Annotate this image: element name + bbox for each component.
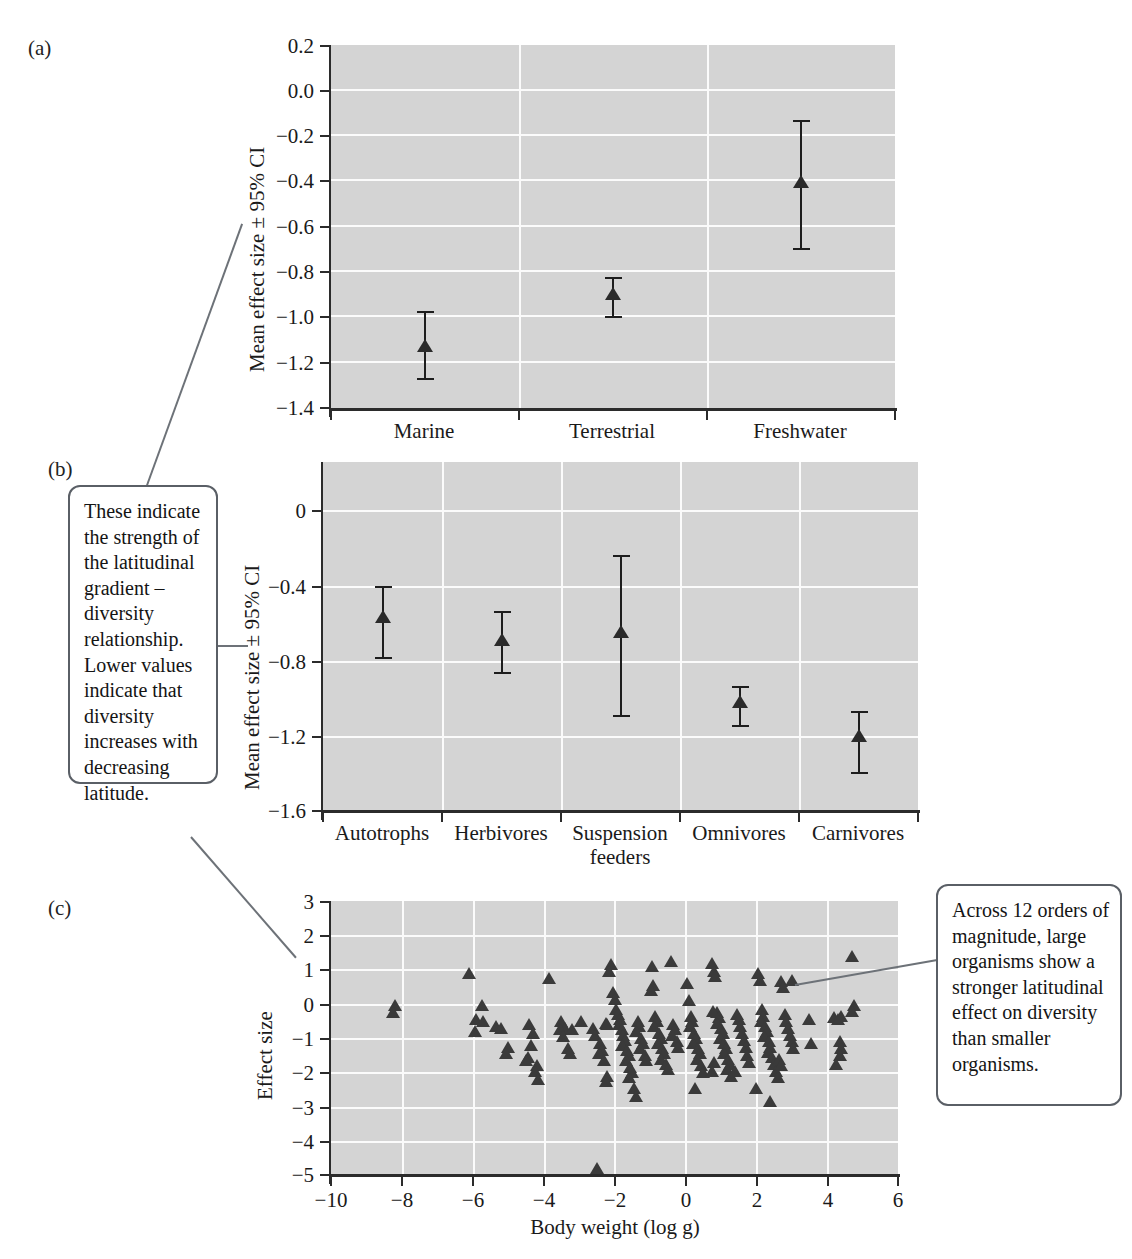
panel-a-ytick-label: −0.6 [236, 215, 314, 240]
panel-b-ytick-label: −0.8 [228, 650, 306, 675]
scatter-point [462, 967, 476, 979]
gridline [799, 462, 801, 811]
ytick-mark [320, 1004, 329, 1006]
xtick-mark [679, 811, 681, 822]
scatter-point [664, 955, 678, 967]
scatter-point [708, 970, 722, 982]
callout-body-weight-explanation: Across 12 orders of magnitude, large org… [936, 884, 1122, 1106]
error-bar-cap-upper-freshwater [793, 120, 810, 122]
panel-c-x-axis-label: Body weight (log g) [455, 1215, 775, 1240]
data-marker-autotrophs [375, 610, 391, 623]
scatter-point [494, 1022, 508, 1034]
xtick-mark [560, 811, 562, 822]
panel-a-ytick-label: −1.4 [236, 396, 314, 421]
panel-b-ytick-label: −0.4 [228, 575, 306, 600]
ytick-mark [312, 586, 321, 588]
xtick-mark [798, 811, 800, 822]
ytick-mark [320, 407, 329, 409]
xtick-mark [897, 1175, 899, 1186]
scatter-point [645, 960, 659, 972]
error-bar-cap-lower-suspension-feeders [613, 715, 630, 717]
panel-b-ytick-label: 0 [228, 499, 306, 524]
panel-a-ytick-label: −0.8 [236, 260, 314, 285]
scatter-point [786, 1042, 800, 1054]
panel-c-ytick-label: 0 [256, 993, 314, 1018]
xtick-mark [827, 1175, 829, 1186]
scatter-point [629, 1090, 643, 1102]
xtick-mark [756, 1175, 758, 1186]
ytick-mark [320, 935, 329, 937]
data-marker-herbivores [494, 633, 510, 646]
scatter-point [705, 1065, 719, 1077]
scatter-point [563, 1047, 577, 1059]
ytick-mark [312, 736, 321, 738]
panel-a-y-axis-line [329, 45, 331, 417]
scatter-point [829, 1058, 843, 1070]
ytick-mark [320, 45, 329, 47]
data-marker-omnivores [732, 695, 748, 708]
error-bar-cap-lower-freshwater [793, 248, 810, 250]
gridline [331, 134, 895, 136]
gridline [331, 225, 895, 227]
panel-b-ytick-label: −1.6 [228, 799, 306, 824]
panel-a-x-axis-line [329, 408, 897, 411]
panel-c-ytick-label: −2 [256, 1061, 314, 1086]
scatter-point [475, 999, 489, 1011]
panel-c-xtick-label: 4 [793, 1188, 863, 1213]
panel-label-a: (a) [28, 36, 51, 61]
scatter-point [599, 1075, 613, 1087]
callout-effect-size-explanation: These indicate the strength of the latit… [68, 485, 218, 784]
gridline [331, 270, 895, 272]
error-bar-cap-upper-carnivores [851, 711, 868, 713]
panel-b-category-carnivores: Carnivores [788, 822, 928, 846]
ytick-mark [320, 969, 329, 971]
ytick-mark [320, 271, 329, 273]
panel-c-ytick-label: −3 [256, 1096, 314, 1121]
panel-c-xtick-label: −6 [438, 1188, 508, 1213]
scatter-point [590, 1162, 604, 1174]
xtick-mark [330, 1175, 332, 1186]
data-marker-terrestrial [605, 287, 621, 300]
gridline [442, 462, 444, 811]
error-bar-cap-lower-terrestrial [605, 316, 622, 318]
data-marker-marine [417, 339, 433, 352]
ytick-mark [320, 362, 329, 364]
ytick-mark [312, 810, 321, 812]
panel-c-ytick-label: 3 [256, 890, 314, 915]
gridline [519, 45, 521, 409]
panel-c-ytick-label: −4 [256, 1130, 314, 1155]
panel-c-xtick-label: 2 [722, 1188, 792, 1213]
ytick-mark [320, 1174, 329, 1176]
ytick-mark [320, 135, 329, 137]
gridline [323, 510, 918, 512]
gridline [707, 45, 709, 409]
panel-b-ytick-label: −1.2 [228, 725, 306, 750]
gridline [331, 179, 895, 181]
scatter-point [845, 950, 859, 962]
panel-a-ytick-label: −1.2 [236, 351, 314, 376]
gridline [323, 736, 918, 738]
ytick-mark [320, 1107, 329, 1109]
scatter-point [706, 1005, 720, 1017]
scatter-point [802, 1013, 816, 1025]
gridline [473, 901, 475, 1175]
scatter-point [771, 1071, 785, 1083]
xtick-mark [685, 1175, 687, 1186]
error-bar-cap-lower-marine [417, 378, 434, 380]
leader-line-callout-left-to-panel-a [145, 224, 243, 489]
scatter-point [774, 1059, 788, 1071]
panel-a-category-marine: Marine [334, 420, 514, 444]
figure-root: (a) Mean effect size ± 95% CI [0, 0, 1132, 1259]
ytick-mark [320, 180, 329, 182]
scatter-point [661, 1063, 675, 1075]
scatter-point [524, 1039, 538, 1051]
xtick-mark [322, 811, 324, 822]
gridline [561, 462, 563, 811]
xtick-mark [543, 1175, 545, 1186]
scatter-point [688, 1082, 702, 1094]
xtick-mark [894, 409, 896, 420]
panel-a-plot-area [331, 45, 895, 409]
panel-c-xtick-label: −10 [296, 1188, 366, 1213]
error-bar-cap-upper-autotrophs [375, 586, 392, 588]
data-marker-suspension-feeders [613, 625, 629, 638]
